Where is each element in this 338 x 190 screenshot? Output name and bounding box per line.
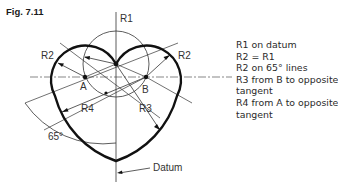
note-line: R1 on datum [236, 39, 326, 51]
datum-label: Datum [153, 162, 182, 173]
point-b-marker [144, 75, 148, 79]
note-line: R4 from A to opposite [236, 97, 326, 109]
point-a-marker [83, 75, 87, 79]
center-point [114, 62, 119, 67]
construction-line-center-a [85, 64, 116, 77]
point-b-label: B [142, 84, 149, 95]
angle-65-arc [25, 103, 116, 144]
r2-right-arrowhead [164, 55, 171, 60]
r2-left-arrowhead [58, 63, 64, 67]
angle-65-label: 65° [48, 131, 63, 142]
r2-right-label: R2 [178, 50, 191, 61]
construction-notes: R1 on datum R2 = R1 R2 on 65° lines R3 f… [236, 39, 326, 120]
note-line: R2 = R1 [236, 51, 326, 63]
r2-top-arrowhead [84, 56, 90, 60]
datum-arrowhead [117, 171, 123, 175]
r1-label: R1 [120, 13, 133, 24]
point-a-label: A [80, 81, 87, 92]
r3-label: R3 [139, 103, 152, 114]
tangent-point-lower [104, 91, 107, 94]
r4-arrowhead [62, 108, 69, 112]
construction-line-b-tangent [146, 77, 192, 103]
note-line: R3 from B to opposite [236, 74, 326, 86]
construction-line-a-lower [44, 77, 146, 130]
note-line: tangent [236, 109, 326, 121]
datum-leader [119, 168, 150, 173]
note-line: tangent [236, 85, 326, 97]
r4-label: R4 [81, 103, 94, 114]
r2-left-label: R2 [41, 50, 54, 61]
note-line: R2 on 65° lines [236, 62, 326, 74]
r4-radius [62, 77, 146, 112]
